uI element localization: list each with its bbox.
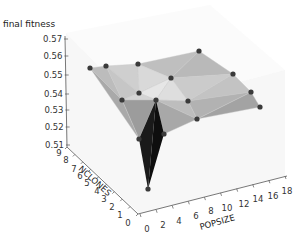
y-tick-label: 8 [63, 155, 68, 165]
x-axis-title: POPSIZE [198, 212, 235, 232]
x-tick-label: 6 [193, 211, 198, 221]
surface-plot: 0.510.520.530.540.550.560.57 0123456789 … [0, 0, 307, 244]
data-point-marker [248, 89, 253, 94]
z-tick-label: 0.53 [44, 105, 63, 115]
x-tick-label: 0 [144, 224, 149, 234]
data-point-marker [161, 131, 166, 136]
z-tick-label: 0.54 [44, 89, 63, 99]
y-tick-label: 2 [109, 202, 114, 212]
x-tick-label: 8 [208, 206, 213, 216]
z-tick-label: 0.52 [45, 122, 64, 132]
z-tick-label: 0.56 [43, 51, 62, 61]
x-tick-label: 12 [239, 199, 250, 209]
data-point-marker [103, 63, 108, 68]
x-tick-label: 14 [253, 194, 264, 204]
z-tick-label: 0.57 [43, 34, 62, 44]
y-tick-label: 7 [71, 164, 76, 174]
y-tick-label: 1 [117, 210, 122, 220]
z-axis: 0.510.520.530.540.550.560.57 [43, 34, 70, 150]
x-tick-label: 18 [282, 186, 293, 196]
data-point-marker [185, 98, 190, 103]
data-point-marker [168, 75, 173, 80]
data-point-marker [119, 97, 124, 102]
x-tick-label: 2 [160, 220, 165, 230]
x-tick-label: 4 [176, 216, 181, 226]
data-point-marker [145, 186, 150, 191]
data-point-marker [136, 90, 141, 95]
data-point-marker [136, 136, 141, 141]
y-tick-label: 0 [125, 218, 130, 228]
data-point-marker [230, 71, 235, 76]
data-point-marker [135, 61, 140, 66]
data-point-marker [194, 116, 199, 121]
y-tick-label: 9 [56, 148, 61, 158]
data-point-marker [87, 65, 92, 70]
z-tick-label: 0.55 [44, 70, 63, 80]
data-point-marker [196, 48, 201, 53]
data-point-marker [153, 97, 158, 102]
data-point-marker [257, 104, 262, 109]
x-tick-label: 16 [268, 191, 279, 201]
x-tick-label: 10 [222, 203, 233, 213]
